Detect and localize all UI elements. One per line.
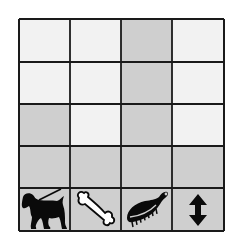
bar-cell-empty bbox=[172, 62, 224, 104]
bar-cell-filled bbox=[121, 104, 172, 146]
bar-cell-filled bbox=[121, 146, 172, 188]
bar-cell-filled bbox=[121, 62, 172, 104]
bar-cell-empty bbox=[70, 62, 121, 104]
bar-cell-empty bbox=[70, 104, 121, 146]
pictograph-bar-chart bbox=[0, 0, 230, 235]
bar-cell-empty bbox=[19, 62, 70, 104]
bar-cell-filled bbox=[70, 146, 121, 188]
bar-cell-filled bbox=[121, 19, 172, 62]
bar-cell-empty bbox=[172, 19, 224, 62]
bar-cell-empty bbox=[19, 19, 70, 62]
bar-cell-filled bbox=[172, 146, 224, 188]
bar-cell-filled bbox=[19, 104, 70, 146]
bar-cell-filled bbox=[19, 146, 70, 188]
bar-cell-empty bbox=[172, 104, 224, 146]
bar-cell-empty bbox=[70, 19, 121, 62]
